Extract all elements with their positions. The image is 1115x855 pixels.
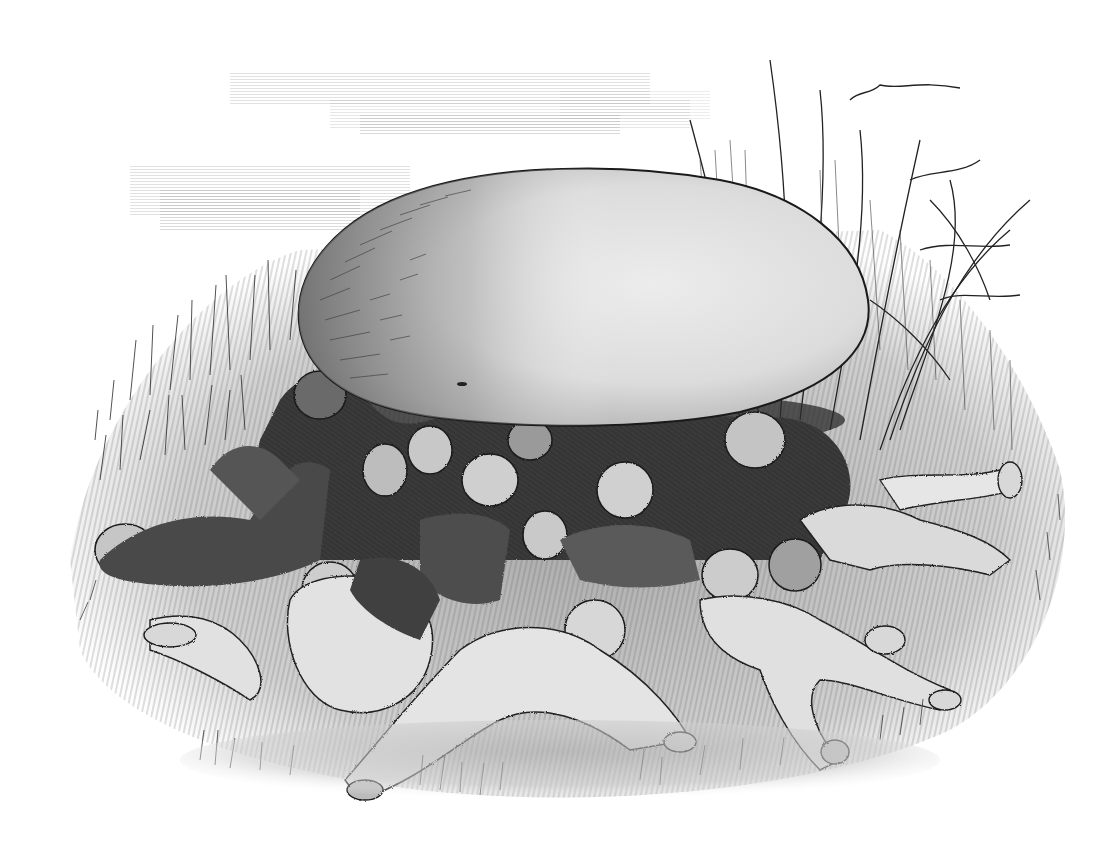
ground-shadow [180,720,940,800]
illustration-canvas: Children sleeping under a giant mushroom [0,0,1115,855]
mushroom-cap [299,169,869,426]
engraving-illustration [0,0,1115,855]
